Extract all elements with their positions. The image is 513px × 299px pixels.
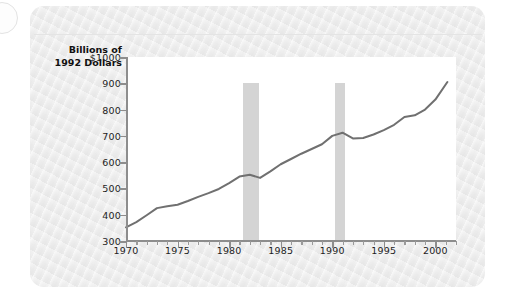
x-tick-minor	[456, 241, 457, 245]
x-tick-minor	[404, 241, 405, 245]
x-tick-major	[332, 241, 333, 248]
decorative-circle	[0, 2, 18, 34]
x-tick-minor	[147, 241, 148, 245]
plot-area-wrapper	[126, 57, 456, 241]
y-tick-mark	[119, 241, 126, 243]
y-axis-line	[126, 57, 128, 241]
y-tick-mark	[119, 110, 126, 112]
x-tick-minor	[301, 241, 302, 245]
x-tick-minor	[394, 241, 395, 245]
x-tick-minor	[157, 241, 158, 245]
y-tick-mark	[119, 136, 126, 138]
x-tick-minor	[239, 241, 240, 245]
y-axis-tick-labels: $1000900800700600500400300	[60, 0, 121, 299]
x-tick-major	[178, 241, 179, 248]
y-tick-mark	[119, 215, 126, 217]
x-tick-minor	[374, 241, 375, 245]
x-tick-minor	[198, 241, 199, 245]
x-tick-minor	[353, 241, 354, 245]
x-tick-minor	[260, 241, 261, 245]
x-tick-minor	[322, 241, 323, 245]
x-tick-major	[126, 241, 127, 248]
x-tick-minor	[219, 241, 220, 245]
x-tick-minor	[343, 241, 344, 245]
x-tick-minor	[363, 241, 364, 245]
x-tick-minor	[312, 241, 313, 245]
x-tick-minor	[209, 241, 210, 245]
x-tick-minor	[425, 241, 426, 245]
x-tick-minor	[188, 241, 189, 245]
series-polyline	[126, 82, 447, 227]
x-tick-major	[384, 241, 385, 248]
y-tick-mark	[119, 57, 126, 59]
x-tick-major	[435, 241, 436, 248]
x-tick-minor	[136, 241, 137, 245]
x-tick-minor	[415, 241, 416, 245]
y-tick-label: $1000	[90, 52, 121, 63]
x-tick-minor	[270, 241, 271, 245]
x-tick-minor	[250, 241, 251, 245]
x-tick-minor	[291, 241, 292, 245]
x-tick-major	[281, 241, 282, 248]
x-tick-minor	[446, 241, 447, 245]
x-tick-major	[229, 241, 230, 248]
y-tick-mark	[119, 162, 126, 164]
x-tick-minor	[167, 241, 168, 245]
y-tick-mark	[119, 188, 126, 190]
series-line-chart	[126, 57, 456, 241]
y-tick-mark	[119, 83, 126, 85]
